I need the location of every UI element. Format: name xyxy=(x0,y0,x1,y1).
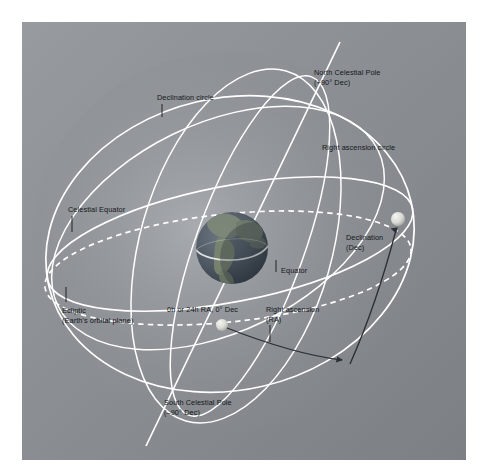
celestial-equator-label: Celestial Equator xyxy=(68,205,126,214)
label-right-ascension-circle: Right ascension circle xyxy=(322,143,395,152)
equator-label: Equator xyxy=(281,266,308,275)
declination-line1: Declination xyxy=(346,233,383,242)
right-ascension-line2: (RA) xyxy=(266,315,281,324)
ecliptic-line2: (Earth's orbital plane) xyxy=(62,316,133,325)
label-zero-point: 0h or 24h RA, 0° Dec xyxy=(167,305,238,314)
north-celestial-pole-line2: (+90° Dec) xyxy=(314,78,350,87)
south-celestial-pole-line1: South Celestial Pole xyxy=(164,398,232,407)
ecliptic-line1: Ecliptic xyxy=(62,306,86,315)
south-celestial-pole-line2: (–90° Dec) xyxy=(164,408,200,417)
celestial-sphere-figure: North Celestial Pole (+90° Dec) Declinat… xyxy=(0,0,481,476)
star-marker xyxy=(391,212,405,226)
right-ascension-circle-label: Right ascension circle xyxy=(322,143,395,152)
right-ascension-line1: Right ascension xyxy=(266,305,319,314)
zero-point-label: 0h or 24h RA, 0° Dec xyxy=(167,305,238,314)
declination-line2: (Dec) xyxy=(346,243,364,252)
diagram-panel: North Celestial Pole (+90° Dec) Declinat… xyxy=(22,22,466,460)
north-celestial-pole-line1: North Celestial Pole xyxy=(314,68,381,77)
declination-circle-label: Declination circle xyxy=(157,93,214,102)
celestial-sphere-diagram: North Celestial Pole (+90° Dec) Declinat… xyxy=(22,22,466,460)
vernal-equinox-marker xyxy=(216,319,228,331)
